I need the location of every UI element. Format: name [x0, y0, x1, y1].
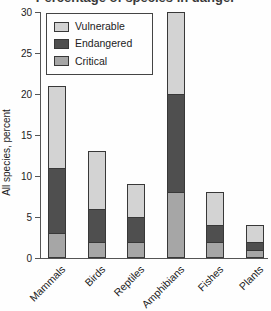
legend-label-endangered: Endangered — [75, 38, 132, 49]
bar-segment-mammals-endangered — [48, 168, 66, 234]
bar-segment-plants-vulnerable — [246, 225, 264, 243]
bar-segment-birds-endangered — [88, 209, 106, 243]
y-tick-label-0: 0 — [10, 253, 32, 264]
legend-swatch-vulnerable — [54, 22, 69, 32]
bar-segment-mammals-vulnerable — [48, 86, 66, 169]
y-axis-title: All species, percent — [1, 93, 14, 213]
bar-segment-reptiles-critical — [127, 242, 145, 258]
y-tick-label-30: 30 — [10, 7, 32, 18]
y-tick-mark-5 — [35, 217, 40, 218]
legend-swatch-endangered — [54, 39, 69, 49]
legend-label-vulnerable: Vulnerable — [75, 21, 125, 32]
y-tick-label-25: 25 — [10, 48, 32, 59]
y-tick-label-20: 20 — [10, 89, 32, 100]
bar-segment-amphibians-endangered — [167, 94, 185, 193]
bar-segment-birds-critical — [88, 242, 106, 258]
y-tick-mark-25 — [35, 53, 40, 54]
bar-segment-plants-critical — [246, 250, 264, 258]
bar-segment-reptiles-endangered — [127, 217, 145, 243]
legend-item-vulnerable: Vulnerable — [54, 21, 148, 32]
y-tick-mark-10 — [35, 176, 40, 177]
bar-segment-plants-endangered — [246, 242, 264, 251]
y-tick-mark-30 — [35, 12, 40, 13]
y-axis-line — [40, 12, 41, 259]
legend-item-critical: Critical — [54, 56, 148, 67]
y-tick-mark-20 — [35, 94, 40, 95]
bar-segment-fishes-critical — [206, 242, 224, 258]
y-tick-mark-15 — [35, 135, 40, 136]
bar-segment-fishes-endangered — [206, 225, 224, 243]
legend-box: VulnerableEndangeredCritical — [46, 13, 153, 75]
y-tick-label-15: 15 — [10, 130, 32, 141]
y-tick-mark-0 — [35, 258, 40, 259]
legend-item-endangered: Endangered — [54, 38, 148, 49]
bar-segment-fishes-vulnerable — [206, 192, 224, 226]
bar-segment-birds-vulnerable — [88, 151, 106, 210]
y-tick-label-5: 5 — [10, 212, 32, 223]
y-tick-label-10: 10 — [10, 171, 32, 182]
x-axis-line — [40, 258, 268, 259]
bar-segment-amphibians-vulnerable — [167, 12, 185, 95]
legend-label-critical: Critical — [75, 56, 107, 67]
bar-segment-amphibians-critical — [167, 192, 185, 258]
bar-segment-reptiles-vulnerable — [127, 184, 145, 218]
stacked-bar-chart-figure: Percentage of species in danger All spec… — [0, 0, 271, 311]
bar-segment-mammals-critical — [48, 233, 66, 258]
legend-swatch-critical — [54, 56, 69, 66]
